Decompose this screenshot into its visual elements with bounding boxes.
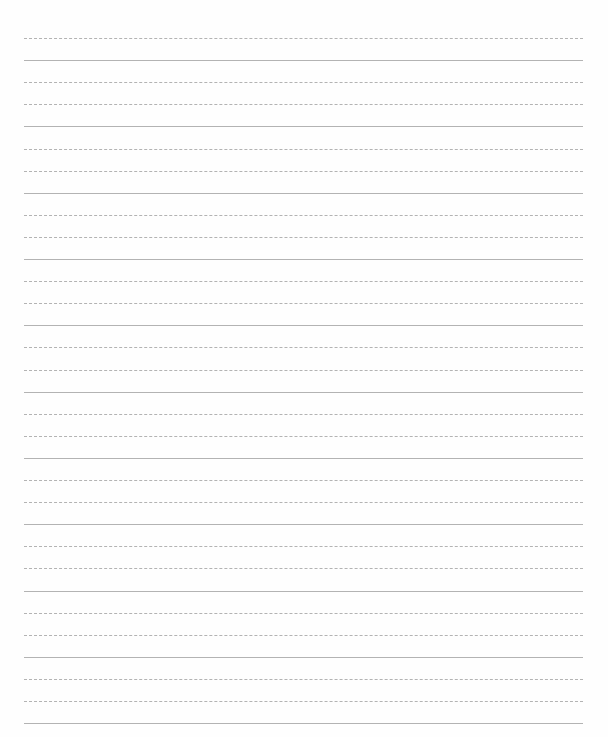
ruled-line — [24, 436, 583, 437]
ruled-line — [24, 568, 583, 569]
ruled-line — [24, 171, 583, 172]
ruled-line — [24, 723, 583, 724]
ruled-line — [24, 193, 583, 194]
ruled-line — [24, 546, 583, 547]
lined-paper-page — [0, 0, 608, 737]
ruled-line — [24, 635, 583, 636]
ruled-line — [24, 104, 583, 105]
ruled-line — [24, 149, 583, 150]
ruled-line — [24, 325, 583, 326]
ruled-line — [24, 281, 583, 282]
ruled-line — [24, 480, 583, 481]
ruled-line — [24, 414, 583, 415]
ruled-line — [24, 458, 583, 459]
ruled-line — [24, 126, 583, 127]
ruled-line — [24, 38, 583, 39]
ruled-line — [24, 524, 583, 525]
ruled-line — [24, 60, 583, 61]
ruled-line — [24, 303, 583, 304]
ruled-line — [24, 657, 583, 658]
ruled-line — [24, 392, 583, 393]
ruled-line — [24, 259, 583, 260]
ruled-line — [24, 370, 583, 371]
ruled-line — [24, 237, 583, 238]
ruled-line — [24, 502, 583, 503]
ruled-line — [24, 701, 583, 702]
ruled-line — [24, 215, 583, 216]
ruled-line — [24, 82, 583, 83]
ruled-line — [24, 613, 583, 614]
ruled-line — [24, 591, 583, 592]
ruled-line — [24, 679, 583, 680]
ruled-line — [24, 347, 583, 348]
